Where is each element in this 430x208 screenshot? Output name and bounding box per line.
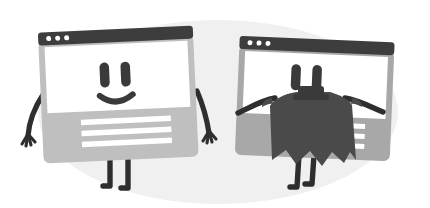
left-character-content-lines [81, 116, 172, 148]
left-character-eye-left [99, 62, 110, 87]
left-character-eye-right [120, 61, 131, 86]
left-character-hand-left [22, 134, 35, 146]
scene-svg [0, 0, 430, 208]
illustration-stage: Flat illustration of two smiling browser… [0, 0, 430, 208]
cape-collar-band [293, 94, 329, 100]
left-character-window[interactable] [38, 26, 199, 164]
